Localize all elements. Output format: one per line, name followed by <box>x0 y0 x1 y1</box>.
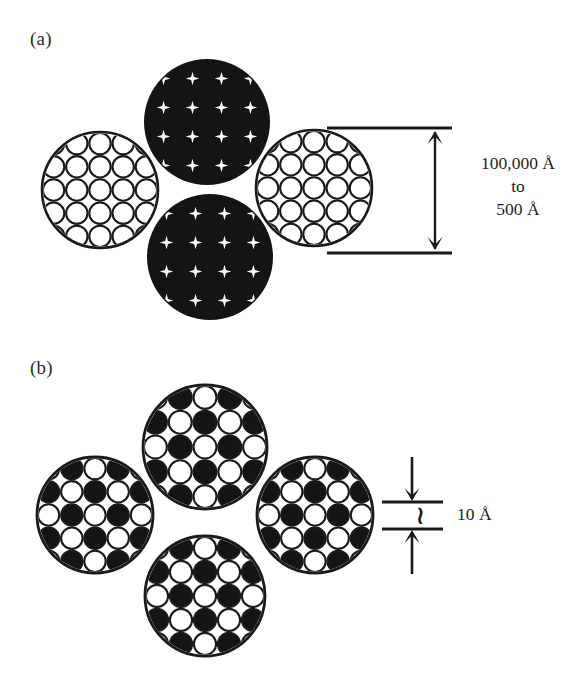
lattice-circle-filled <box>304 528 325 549</box>
lattice-circle-open <box>170 561 192 583</box>
lattice-circle <box>327 177 348 198</box>
lattice-circle-open <box>170 609 192 631</box>
lattice-circle-open <box>15 481 36 502</box>
lattice-circle-open <box>218 460 241 483</box>
panel-b-graphics <box>15 361 396 679</box>
lattice-circle-filled <box>38 574 59 595</box>
lattice-circle-open <box>351 504 372 525</box>
lattice-circle-filled <box>218 585 240 607</box>
lattice-circle-open <box>258 504 279 525</box>
lattice-circle <box>303 154 324 175</box>
lattice-circle <box>303 108 324 129</box>
lattice-circle-filled <box>170 585 192 607</box>
lattice-circle-filled <box>15 458 36 479</box>
lattice-circle-filled <box>84 435 105 456</box>
lattice-circle <box>20 133 41 154</box>
lattice-circle-open <box>84 551 105 572</box>
lattice-circle-open <box>304 551 325 572</box>
lattice-circle-open <box>61 528 82 549</box>
figure-canvas: (a) (b) 100,000 Å to 500 Å 10 Å ∼ <box>0 0 580 679</box>
lattice-circle-open <box>169 361 192 384</box>
lattice-circle <box>89 249 110 270</box>
lattice-circle <box>350 131 371 152</box>
lattice-circle <box>280 108 301 129</box>
lattice-circle <box>373 224 394 245</box>
lattice-circle-open <box>15 574 36 595</box>
lattice-circle-filled <box>108 504 129 525</box>
lattice-circle-filled <box>304 435 325 456</box>
lattice-circle-filled <box>194 609 216 631</box>
lattice-circle-open <box>84 458 105 479</box>
lattice-circle-filled <box>122 585 144 607</box>
lattice-circle <box>373 131 394 152</box>
panel-label-a: (a) <box>30 28 52 50</box>
lattice-circle-open <box>144 386 167 409</box>
lattice-circle <box>20 179 41 200</box>
lattice-circle <box>66 156 87 177</box>
lattice-circle-filled <box>266 585 288 607</box>
diagram-svg: ∼ <box>0 0 580 679</box>
lattice-circle <box>280 247 301 268</box>
lattice-circle-open <box>146 633 168 655</box>
lattice-circle <box>350 177 371 198</box>
lattice-circle-open <box>374 574 395 595</box>
scale-annotation-b: 10 Å <box>457 504 527 524</box>
lattice-circle <box>280 154 301 175</box>
lattice-circle-open <box>218 510 241 533</box>
lattice-circle <box>350 224 371 245</box>
lattice-circle-open <box>61 574 82 595</box>
lattice-circle-open <box>218 561 240 583</box>
lattice-circle-filled <box>61 504 82 525</box>
scale-annotation-a: 100,000 Å to 500 Å <box>462 152 574 221</box>
lattice-circle <box>303 247 324 268</box>
lattice-circle <box>113 203 134 224</box>
lattice-circle-filled <box>304 481 325 502</box>
lattice-circle <box>234 177 255 198</box>
lattice-circle <box>136 179 157 200</box>
lattice-circle-filled <box>235 504 256 525</box>
lattice-circle <box>66 110 87 131</box>
lattice-circle-open <box>119 361 142 384</box>
scale-a-line-3: 500 Å <box>462 198 574 221</box>
lattice-circle <box>303 177 324 198</box>
lattice-circle <box>89 110 110 131</box>
lattice-circle <box>20 249 41 270</box>
lattice-circle-open <box>169 460 192 483</box>
lattice-circle <box>113 249 134 270</box>
lattice-circle-filled <box>84 574 105 595</box>
lattice-circle-open <box>144 436 167 459</box>
lattice-circle <box>66 179 87 200</box>
lattice-circle-open <box>328 574 349 595</box>
lattice-circle-open <box>242 585 264 607</box>
lattice-circle-filled <box>119 386 142 409</box>
lattice-circle <box>373 247 394 268</box>
lattice-circle <box>89 203 110 224</box>
lattice-circle-filled <box>351 435 372 456</box>
lattice-circle <box>350 247 371 268</box>
lattice-circle <box>113 110 134 131</box>
lattice-circle-filled <box>194 460 217 483</box>
lattice-circle <box>327 108 348 129</box>
lattice-circle-filled <box>119 436 142 459</box>
lattice-circle-open <box>38 458 59 479</box>
lattice-circle-open <box>194 585 216 607</box>
lattice-circle-filled <box>374 551 395 572</box>
lattice-circle-open <box>194 436 217 459</box>
lattice-circle-open <box>38 504 59 525</box>
lattice-circle-open <box>281 574 302 595</box>
lattice-circle-filled <box>154 504 175 525</box>
panel-label-b: (b) <box>30 357 53 379</box>
lattice-circle-open <box>15 528 36 549</box>
lattice-circle <box>20 203 41 224</box>
lattice-circle <box>113 179 134 200</box>
lattice-circle-filled <box>144 361 167 384</box>
lattice-circle-open <box>194 633 216 655</box>
lattice-circle <box>373 108 394 129</box>
lattice-circle-open <box>170 513 192 535</box>
lattice-circle <box>280 177 301 198</box>
lattice-circle-open <box>119 411 142 434</box>
lattice-circle-filled <box>122 633 144 655</box>
lattice-circle <box>43 179 64 200</box>
lattice-circle <box>43 249 64 270</box>
lattice-circle-open <box>328 528 349 549</box>
